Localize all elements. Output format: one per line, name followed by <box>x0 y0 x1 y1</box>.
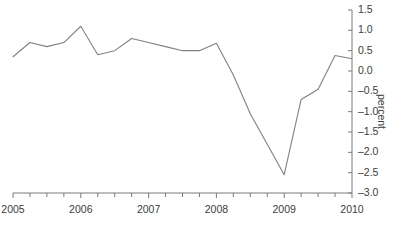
x-axis-tick-label: 2010 <box>330 203 374 215</box>
x-axis-tick-label: 2008 <box>194 203 238 215</box>
x-axis-tick-label: 2009 <box>262 203 306 215</box>
y-axis-tick-label: –3.0 <box>358 186 378 198</box>
y-axis-tick-label: –2.5 <box>358 166 378 178</box>
chart-container: 1.51.00.50.0–0.5–1.0–1.5–2.0–2.5–3.0 200… <box>0 0 393 228</box>
y-axis-tick-label: –2.0 <box>358 145 378 157</box>
y-axis-title: percent <box>376 94 388 129</box>
x-axis-tick-label: 2006 <box>59 203 103 215</box>
y-axis-tick-label: 0.5 <box>358 44 373 56</box>
y-axis-tick-label: 1.0 <box>358 23 373 35</box>
x-axis-tick-label: 2007 <box>127 203 171 215</box>
x-axis-minor-ticks <box>30 193 335 197</box>
y-axis-tick-label: 0.0 <box>358 64 373 76</box>
data-line-percent <box>13 26 352 174</box>
x-axis-tick-label: 2005 <box>0 203 35 215</box>
y-axis-ticks <box>348 10 352 193</box>
y-axis-tick-label: 1.5 <box>358 3 373 15</box>
line-chart-plot <box>0 0 393 228</box>
